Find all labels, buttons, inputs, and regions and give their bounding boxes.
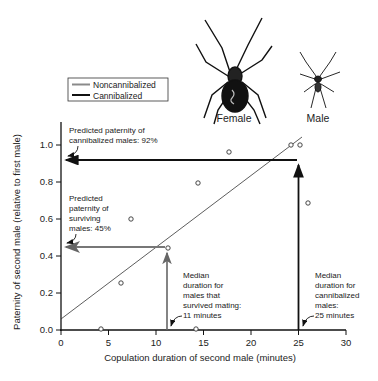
svg-text:0.8: 0.8	[40, 176, 53, 187]
svg-text:Predicted paternity of: Predicted paternity of	[69, 126, 145, 135]
svg-text:males that: males that	[183, 291, 221, 300]
y-axis-label: Paternity of second male (relative to fi…	[11, 134, 22, 330]
svg-text:25: 25	[293, 337, 304, 348]
svg-text:20: 20	[246, 337, 257, 348]
x-tick-labels: 0 5 10 15 20 25 30	[58, 337, 351, 348]
svg-text:duration for: duration for	[183, 281, 224, 290]
annotation-surviving-paternity: Predicted paternity of surviving males: …	[67, 194, 111, 243]
svg-text:0.4: 0.4	[40, 250, 53, 261]
svg-text:10: 10	[151, 337, 162, 348]
svg-text:15: 15	[198, 337, 209, 348]
data-point	[99, 327, 103, 331]
data-point	[119, 281, 123, 285]
svg-text:Median: Median	[183, 271, 209, 280]
svg-text:11 minutes: 11 minutes	[183, 311, 222, 320]
data-point	[306, 201, 310, 205]
x-ticks	[61, 330, 346, 335]
data-point	[298, 143, 302, 147]
svg-text:5: 5	[106, 337, 111, 348]
x-axis-label: Copulation duration of second male (minu…	[104, 352, 296, 363]
svg-text:paternity of: paternity of	[69, 204, 109, 213]
data-point	[196, 181, 200, 185]
annotation-cannibalized-duration: Median duration for cannibalized males: …	[303, 271, 359, 326]
annotation-surviving-duration: Median duration for males that survived …	[171, 271, 241, 326]
svg-text:cannibalized: cannibalized	[315, 291, 359, 300]
legend-label-noncannibalized: Noncannibalized	[93, 80, 156, 90]
chart-canvas: Female Male Noncannibalized Cannibalized…	[0, 0, 378, 381]
annotation-cannibalized-paternity: Predicted paternity of cannibalized male…	[68, 126, 158, 156]
legend-label-cannibalized: Cannibalized	[93, 91, 142, 101]
svg-text:0.0: 0.0	[40, 324, 53, 335]
svg-text:surviving: surviving	[69, 214, 101, 223]
data-point	[227, 150, 231, 154]
svg-text:0.6: 0.6	[40, 213, 53, 224]
data-point	[194, 327, 198, 331]
svg-text:males:: males:	[315, 301, 339, 310]
svg-text:0.2: 0.2	[40, 287, 53, 298]
data-point	[129, 217, 133, 221]
svg-text:survived mating:: survived mating:	[183, 301, 241, 310]
noncannibalized-arrows	[66, 247, 167, 330]
svg-text:30: 30	[341, 337, 352, 348]
svg-text:Predicted: Predicted	[69, 194, 103, 203]
svg-text:1.0: 1.0	[40, 139, 53, 150]
y-ticks	[56, 145, 61, 330]
male-spider-illustration	[300, 52, 340, 108]
svg-text:0: 0	[58, 337, 63, 348]
male-label: Male	[307, 112, 330, 124]
svg-text:duration for: duration for	[315, 281, 356, 290]
female-spider-illustration	[196, 18, 272, 124]
data-point	[166, 246, 170, 250]
svg-text:25 minutes: 25 minutes	[315, 311, 354, 320]
svg-text:males: 45%: males: 45%	[69, 224, 111, 233]
svg-text:cannibalized males: 92%: cannibalized males: 92%	[69, 136, 158, 145]
data-point	[289, 143, 293, 147]
svg-text:Median: Median	[315, 271, 341, 280]
y-tick-labels: 1.0 0.8 0.6 0.4 0.2 0.0	[40, 139, 53, 335]
legend: Noncannibalized Cannibalized	[68, 78, 168, 101]
female-label: Female	[216, 112, 251, 124]
